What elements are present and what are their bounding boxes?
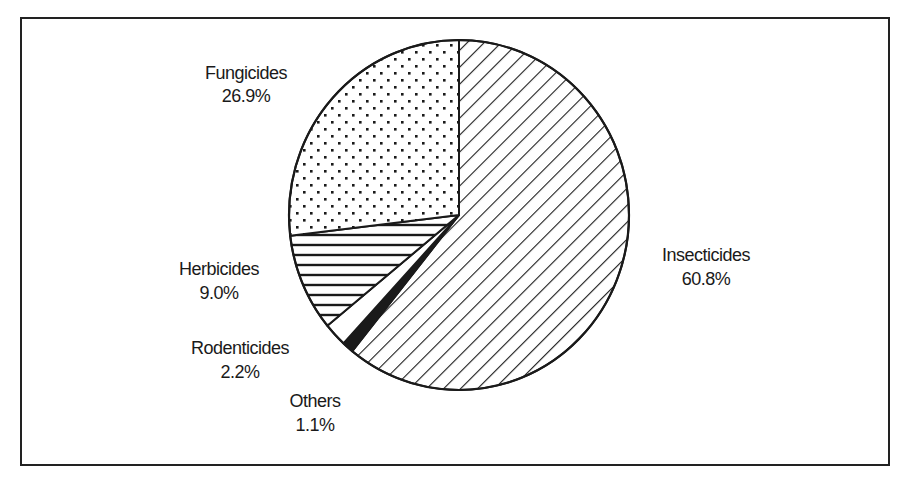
label-insecticides-name: Insecticides [662, 245, 751, 265]
pie-slice-fungicides [289, 40, 459, 236]
slices-layer [289, 40, 629, 390]
label-herbicides-value: 9.0% [199, 283, 239, 303]
label-others-value: 1.1% [295, 415, 335, 435]
label-others-name: Others [289, 391, 341, 411]
label-insecticides-value: 60.8% [682, 269, 731, 289]
label-herbicides-name: Herbicides [179, 259, 260, 279]
label-fungicides-name: Fungicides [205, 63, 288, 83]
pie-chart: Fungicides 26.9% Insecticides 60.8% Herb… [0, 0, 904, 480]
label-fungicides-value: 26.9% [222, 86, 271, 106]
label-rodenticides-value: 2.2% [220, 362, 260, 382]
label-rodenticides-name: Rodenticides [191, 338, 290, 358]
